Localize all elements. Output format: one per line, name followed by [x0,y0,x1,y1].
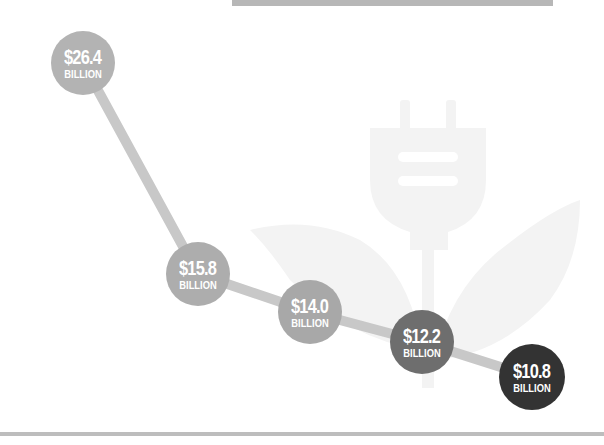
data-point-amount: $10.8 [514,361,551,381]
data-point-amount: $15.8 [180,258,217,278]
data-point-amount: $26.4 [65,47,102,67]
data-point-unit: BILLION [513,382,550,394]
data-point-unit: BILLION [64,68,101,80]
data-point-1: $26.4 BILLION [51,31,115,95]
data-point-2: $15.8 BILLION [166,242,230,306]
data-point-unit: BILLION [179,279,216,291]
data-point-4: $12.2 BILLION [390,310,454,374]
bottom-divider [0,432,604,436]
data-point-3: $14.0 BILLION [278,280,342,344]
data-point-5: $10.8 BILLION [499,344,565,410]
data-point-amount: $12.2 [404,326,441,346]
data-point-unit: BILLION [403,347,440,359]
data-point-unit: BILLION [291,317,328,329]
data-point-amount: $14.0 [292,296,329,316]
